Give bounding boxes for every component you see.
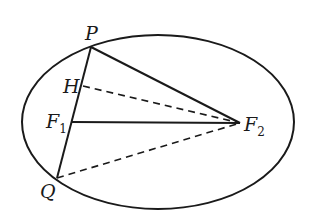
segment-pf2 (91, 47, 240, 123)
label-f1: F1 (45, 110, 67, 136)
label-p: P (84, 22, 99, 44)
segment-pq (57, 47, 91, 178)
label-h: H (62, 75, 80, 97)
ellipse-diagram: P H F1 F2 Q (0, 0, 310, 221)
segment-hf2-dashed (83, 86, 240, 123)
segment-f1f2 (72, 122, 240, 123)
segment-qf2-dashed (57, 123, 240, 178)
label-f2: F2 (243, 113, 265, 139)
label-q: Q (40, 180, 56, 202)
